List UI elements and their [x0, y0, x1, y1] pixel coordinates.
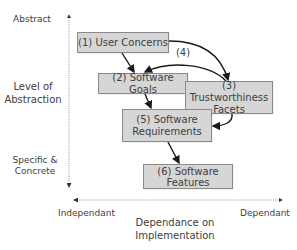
- box-user-concerns-label: (1) User Concerns: [78, 37, 168, 49]
- box-software-requirements: (5) Software Requirements: [122, 109, 212, 142]
- box-software-requirements-line2: Requirements: [132, 126, 202, 138]
- x-axis-left-label: Independant: [58, 208, 112, 219]
- box-software-requirements-line1: (5) Software: [136, 114, 197, 126]
- arrow-2-to-5: [145, 94, 151, 108]
- y-axis-title-line1: Level of: [2, 80, 64, 93]
- arrow-3-to-5: [213, 114, 232, 126]
- box-software-features-line1: (6) Software: [157, 166, 218, 177]
- y-axis-title: Level of Abstraction: [2, 80, 64, 106]
- y-axis-title-line2: Abstraction: [2, 93, 64, 106]
- x-axis-right-label: Dependant: [240, 208, 288, 219]
- y-axis-bottom-label-line1: Specific &: [10, 155, 60, 166]
- abstraction-diagram: Abstract Level of Abstraction Specific &…: [0, 0, 297, 250]
- x-axis-title: Dependance on Implementation: [120, 216, 230, 242]
- box-software-features: (6) Software Features: [143, 164, 233, 189]
- edge-label-4: (4): [174, 47, 192, 58]
- x-axis-title-line1: Dependance on: [120, 216, 230, 229]
- y-axis-bottom-label: Specific & Concrete: [10, 155, 60, 177]
- box-software-goals: (2) Software Goals: [98, 73, 188, 94]
- box-user-concerns: (1) User Concerns: [77, 32, 169, 53]
- box-trustworthiness-facets-line1: (3) Trustworthiness: [186, 80, 272, 104]
- arrow-1-to-2: [122, 53, 134, 72]
- box-software-goals-label: (2) Software Goals: [99, 72, 187, 96]
- y-axis-top-label: Abstract: [10, 14, 54, 25]
- y-axis-bottom-label-line2: Concrete: [10, 166, 60, 177]
- x-axis-title-line2: Implementation: [120, 229, 230, 242]
- arrow-5-to-6: [168, 142, 179, 163]
- box-software-features-line2: Features: [167, 177, 210, 188]
- box-trustworthiness-facets-line2: Facets: [213, 104, 245, 116]
